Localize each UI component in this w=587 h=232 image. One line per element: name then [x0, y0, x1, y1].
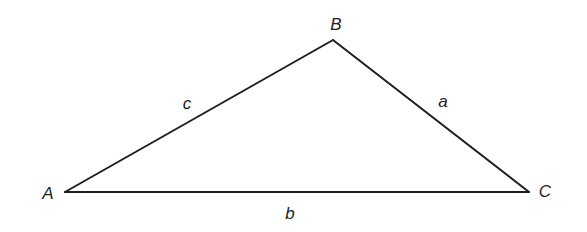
side-c-line — [65, 40, 333, 192]
triangle-diagram: A B C c a b — [0, 0, 587, 232]
side-a-line — [333, 40, 529, 192]
vertex-label-c: C — [539, 182, 552, 201]
side-label-a: a — [438, 92, 447, 111]
side-label-c: c — [183, 94, 192, 113]
side-label-b: b — [285, 204, 294, 223]
vertex-label-a: A — [41, 184, 53, 203]
vertex-label-b: B — [330, 15, 341, 34]
